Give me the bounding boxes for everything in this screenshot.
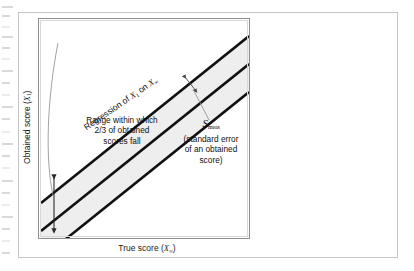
annotation-range-line2: 2/3 of obtained	[80, 125, 164, 135]
annotation-sem-line2: of an obtained	[163, 144, 259, 154]
y-axis-title-subscript: 1	[26, 93, 32, 96]
sem-symbol-subscript: meas	[208, 124, 220, 130]
annotation-sem-text: Smeas (standard error of an obtained sco…	[163, 117, 259, 165]
range-leader-curve	[48, 43, 58, 195]
y-axis-title-text: Obtained score (	[22, 101, 32, 164]
annotation-sem-line3: score)	[163, 155, 259, 165]
y-axis-title: Obtained score (X1)	[22, 52, 33, 202]
y-axis-title-symbol: X	[22, 96, 32, 101]
sem-symbol: Smeas	[163, 117, 259, 133]
y-axis-title-close: )	[22, 91, 32, 94]
annotation-range-line1: Range within which	[80, 115, 164, 125]
annotation-range-line3: scores fall	[80, 136, 164, 146]
annotation-range-text: Range within which 2/3 of obtained score…	[80, 115, 164, 146]
x-axis-title-text: True score (	[118, 243, 164, 253]
x-axis-title-close: )	[173, 243, 176, 253]
figure-page: Regression of X1 on X∞ Range within whic…	[0, 0, 414, 271]
scan-gutter-artifacts	[0, 0, 14, 271]
x-axis-title: True score (X∞)	[72, 243, 222, 254]
annotation-sem-line1: (standard error	[163, 134, 259, 144]
